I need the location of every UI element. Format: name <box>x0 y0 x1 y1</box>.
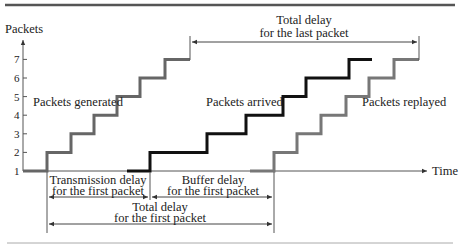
label-packets-replayed: Packets replayed <box>362 95 447 109</box>
packet-delay-diagram: Packets Time 1234567 Packets generated P… <box>0 0 466 245</box>
transmission-delay-label-2: for the first packet <box>52 184 145 198</box>
label-packets-generated: Packets generated <box>33 95 124 109</box>
y-tick-label: 5 <box>14 91 20 103</box>
y-ticks: 1234567 <box>14 53 27 177</box>
total-delay-last-label-2: for the last packet <box>259 26 349 40</box>
series-packets-generated <box>23 59 190 171</box>
y-tick-label: 3 <box>14 128 20 140</box>
label-packets-arrived: Packets arrived <box>206 95 283 109</box>
x-axis-label: Time <box>432 164 458 178</box>
y-tick-label: 4 <box>14 109 20 121</box>
buffer-delay-label-2: for the first packet <box>167 184 260 198</box>
total-delay-first-label-2: for the first packet <box>114 211 207 225</box>
y-axis-label: Packets <box>5 22 43 36</box>
total-delay-last-label-1: Total delay <box>276 13 332 27</box>
y-tick-label: 1 <box>14 165 20 177</box>
y-tick-label: 7 <box>14 53 20 65</box>
y-tick-label: 6 <box>14 72 20 84</box>
y-tick-label: 2 <box>14 146 20 158</box>
